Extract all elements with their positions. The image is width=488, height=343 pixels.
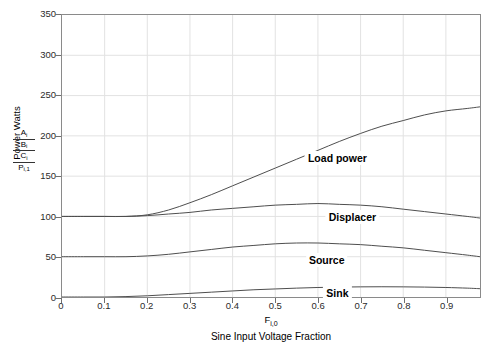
y-tick-label: 350 bbox=[22, 9, 56, 19]
y-tick-mark bbox=[55, 136, 61, 137]
y-tick-mark bbox=[55, 55, 61, 56]
x-tick-mark bbox=[232, 298, 233, 303]
chart-container: Power Watts Ai Bi Ci Pi,1 05010015020025… bbox=[0, 0, 488, 343]
y-tick-label: 150 bbox=[22, 172, 56, 182]
series-label-sink: Sink bbox=[323, 286, 351, 300]
x-tick-mark bbox=[190, 298, 191, 303]
series-line-displacer bbox=[62, 204, 480, 219]
y-tick-label: 50 bbox=[22, 253, 56, 263]
series-label-displacer: Displacer bbox=[326, 210, 379, 224]
series-lines bbox=[62, 15, 480, 297]
x-tick-mark bbox=[318, 298, 319, 303]
y-tick-label: 100 bbox=[22, 212, 56, 222]
x-tick-mark bbox=[147, 298, 148, 303]
series-label-source: Source bbox=[306, 253, 348, 267]
x-axis-symbol: Fi,0 bbox=[61, 314, 481, 330]
x-axis-title: Fi,0 Sine Input Voltage Fraction bbox=[61, 314, 481, 343]
x-tick-mark bbox=[404, 298, 405, 303]
x-tick-mark bbox=[361, 298, 362, 303]
y-tick-mark bbox=[55, 217, 61, 218]
y-tick-mark bbox=[55, 14, 61, 15]
plot-area bbox=[61, 14, 481, 298]
series-label-load-power: Load power bbox=[305, 151, 370, 165]
series-line-source bbox=[62, 243, 480, 257]
x-tick-mark bbox=[275, 298, 276, 303]
x-tick-mark bbox=[447, 298, 448, 303]
y-tick-label: 0 bbox=[22, 293, 56, 303]
y-tick-label: 200 bbox=[22, 131, 56, 141]
x-tick-mark bbox=[61, 298, 62, 303]
y-tick-label: 300 bbox=[22, 50, 56, 60]
y-tick-mark bbox=[55, 257, 61, 258]
series-line-load-power bbox=[62, 107, 480, 217]
y-axis-tick-labels: 050100150200250300350 bbox=[18, 14, 56, 298]
x-tick-mark bbox=[104, 298, 105, 303]
y-tick-mark bbox=[55, 95, 61, 96]
x-axis-name: Sine Input Voltage Fraction bbox=[61, 330, 481, 343]
series-line-sink bbox=[62, 287, 480, 297]
y-tick-mark bbox=[55, 176, 61, 177]
y-tick-label: 250 bbox=[22, 90, 56, 100]
x-axis-tick-labels: 00.10.20.30.40.50.60.70.80.9 bbox=[61, 301, 481, 315]
